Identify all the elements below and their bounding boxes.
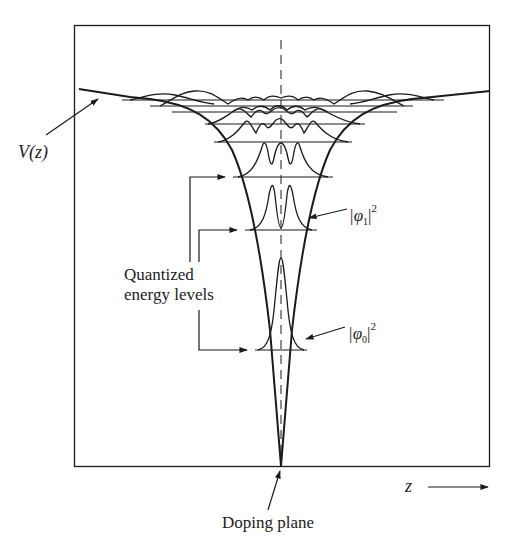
z-axis-label: z — [405, 476, 412, 496]
phi0-symbol: |φ — [348, 324, 362, 343]
phi0-superscript: 2 — [370, 320, 376, 332]
diagram-canvas — [0, 0, 511, 558]
phi1-label: |φ1|2 — [349, 200, 377, 232]
wavefunctions — [130, 91, 434, 350]
phi1-symbol: |φ — [349, 206, 363, 225]
phi1-superscript: 2 — [371, 202, 377, 214]
quantized-levels-label-line2: energy levels — [124, 285, 214, 305]
quantized-levels-label-line1: Quantized — [124, 265, 194, 285]
potential-label: V(z) — [18, 142, 48, 162]
plot-frame — [75, 26, 490, 467]
doping-plane-label: Doping plane — [222, 513, 314, 533]
phi0-label: |φ0|2 — [348, 318, 376, 350]
